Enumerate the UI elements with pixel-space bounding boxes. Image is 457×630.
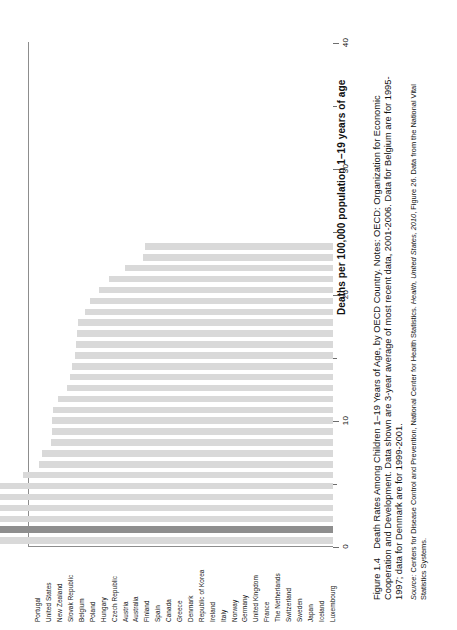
category-label-portugal: Portugal bbox=[35, 597, 41, 622]
bar-fill bbox=[39, 461, 333, 468]
category-label-republic-of-korea: Republic of Korea bbox=[199, 569, 205, 622]
bar-fill bbox=[52, 428, 333, 435]
bar-japan bbox=[28, 265, 333, 272]
category-label-switzerland: Switzerland bbox=[286, 588, 292, 622]
bar-fill bbox=[78, 319, 333, 326]
bar-france bbox=[28, 309, 333, 316]
bar-the-netherlands bbox=[28, 298, 333, 305]
bar-fill bbox=[67, 385, 333, 392]
bar-norway bbox=[28, 341, 333, 348]
bar-fill bbox=[51, 439, 333, 446]
bar-portugal bbox=[28, 537, 333, 544]
bar-fill bbox=[76, 341, 333, 348]
bar-austria bbox=[28, 450, 333, 457]
category-label-united-states: United States bbox=[46, 582, 52, 622]
bar-fill bbox=[53, 407, 333, 414]
category-label-italy: Italy bbox=[221, 610, 227, 622]
caption-text: Death Rates Among Children 1–19 Years of… bbox=[372, 95, 382, 549]
source-title-italic: Health, United States, 2010 bbox=[409, 214, 418, 304]
bar-fill bbox=[0, 483, 333, 490]
bar-fill bbox=[0, 516, 333, 523]
category-label-japan: Japan bbox=[308, 604, 314, 622]
bar-fill bbox=[125, 265, 333, 272]
bar-fill bbox=[58, 396, 333, 403]
bar-fill bbox=[0, 494, 333, 501]
rotated-plot-container bbox=[28, 42, 333, 547]
bar-czech-republic bbox=[28, 461, 333, 468]
source-text-a: Centers for Disease Control and Preventi… bbox=[409, 304, 418, 574]
category-label-belgium: Belgium bbox=[79, 598, 85, 622]
axis-tick-label: 10 bbox=[341, 413, 350, 429]
bar-fill bbox=[0, 526, 333, 533]
source-line-1: Source: Centers for Disease Control and … bbox=[410, 84, 418, 600]
bar-fill bbox=[23, 472, 333, 479]
bar-series bbox=[28, 42, 333, 546]
bar-fill bbox=[75, 352, 333, 359]
axis-tick bbox=[333, 421, 339, 422]
category-label-germany: Germany bbox=[242, 595, 248, 622]
bar-fill bbox=[0, 505, 333, 512]
axis-tick bbox=[333, 43, 339, 44]
bar-iceland bbox=[28, 254, 333, 261]
category-axis-labels: PortugalUnited StatesNew ZealandSlovak R… bbox=[28, 548, 333, 626]
bar-slovak-republic bbox=[28, 505, 333, 512]
bar-switzerland bbox=[28, 287, 333, 294]
bar-italy bbox=[28, 352, 333, 359]
source-text-b: , Figure 26. Data from the National Vita… bbox=[409, 84, 418, 214]
category-label-australia: Australia bbox=[133, 596, 139, 622]
category-label-hungary: Hungary bbox=[101, 597, 107, 622]
bar-united-kingdom bbox=[28, 319, 333, 326]
bar-fill bbox=[42, 450, 333, 457]
figure-number: Figure 1.4 bbox=[372, 549, 382, 600]
bar-canada bbox=[28, 407, 333, 414]
axis-tick-label: 0 bbox=[341, 539, 350, 555]
category-label-ireland: Ireland bbox=[210, 602, 216, 622]
bar-fill bbox=[70, 374, 333, 381]
caption-line-1: Figure 1.4 Death Rates Among Children 1–… bbox=[372, 95, 382, 600]
axis-title: Deaths per 100,000 population 1–19 years… bbox=[336, 80, 347, 315]
axis-tick bbox=[333, 547, 339, 548]
chart-plot-area bbox=[28, 42, 333, 547]
bar-denmark bbox=[28, 385, 333, 392]
bar-fill bbox=[90, 298, 333, 305]
bar-australia bbox=[28, 439, 333, 446]
axis-minor-tick bbox=[333, 358, 337, 359]
category-label-sweden: Sweden bbox=[297, 598, 303, 622]
category-label-the-netherlands: The Netherlands bbox=[275, 573, 281, 622]
category-label-france: France bbox=[264, 602, 270, 623]
category-label-denmark: Denmark bbox=[188, 595, 194, 622]
caption-line-3: 1997; data for Denmark are for 1999-2001… bbox=[394, 423, 404, 600]
source-line-2: Statistics Systems. bbox=[420, 538, 428, 600]
bar-fill bbox=[52, 417, 333, 424]
bar-republic-of-korea bbox=[28, 374, 333, 381]
bar-luxembourg bbox=[28, 243, 333, 250]
category-label-greece: Greece bbox=[177, 600, 183, 622]
category-label-new-zealand: New Zealand bbox=[57, 583, 63, 622]
category-label-norway: Norway bbox=[232, 600, 238, 622]
bar-finland bbox=[28, 428, 333, 435]
category-label-poland: Poland bbox=[90, 602, 96, 623]
bar-fill bbox=[143, 254, 333, 261]
axis-minor-tick bbox=[333, 484, 337, 485]
bar-fill bbox=[99, 287, 333, 294]
bar-united-states bbox=[28, 526, 333, 533]
bar-new-zealand bbox=[28, 516, 333, 523]
bar-fill bbox=[77, 330, 333, 337]
category-label-czech-republic: Czech Republic bbox=[112, 576, 118, 622]
bar-fill bbox=[0, 537, 333, 544]
category-label-united-kingdom: United Kingdom bbox=[253, 575, 259, 622]
bar-greece bbox=[28, 396, 333, 403]
category-label-spain: Spain bbox=[155, 605, 161, 622]
caption-line-2: Cooperation and Development. Data shown … bbox=[383, 76, 393, 600]
category-label-slovak-republic: Slovak Republic bbox=[68, 575, 74, 622]
bar-spain bbox=[28, 417, 333, 424]
bar-poland bbox=[28, 483, 333, 490]
bar-germany bbox=[28, 330, 333, 337]
category-label-finland: Finland bbox=[144, 600, 150, 622]
axis-tick-label: 40 bbox=[341, 35, 350, 51]
bar-fill bbox=[72, 363, 333, 370]
category-label-iceland: Iceland bbox=[319, 601, 325, 622]
bar-fill bbox=[145, 243, 333, 250]
bar-belgium bbox=[28, 494, 333, 501]
bar-sweden bbox=[28, 276, 333, 283]
